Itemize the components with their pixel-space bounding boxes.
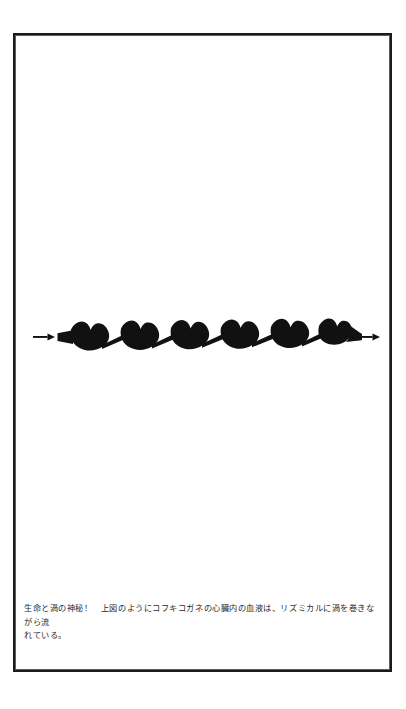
document-page: 生命と渦の神秘！ 上図のようにコフキコガネの心臓内の血液は、リズミカルに渦を巻き… [0, 0, 406, 709]
page-border-frame: 生命と渦の神秘！ 上図のようにコフキコガネの心臓内の血液は、リズミカルに渦を巻き… [13, 33, 392, 672]
figure-caption: 生命と渦の神秘！ 上図のようにコフキコガネの心臓内の血液は、リズミカルに渦を巻き… [24, 602, 379, 643]
figure-area [15, 35, 390, 670]
caption-line-1: 生命と渦の神秘！ 上図のようにコフキコガネの心臓内の血液は、リズミカルに渦を巻き… [24, 604, 375, 627]
caption-line-2: れている。 [24, 631, 67, 640]
heart-silhouette [58, 319, 363, 351]
insect-heart-diagram [17, 297, 388, 377]
flow-arrow-left-icon [33, 333, 55, 340]
